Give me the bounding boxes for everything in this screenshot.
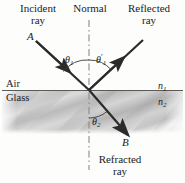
n1-label: n1: [158, 76, 167, 93]
incident-ray-heading: Incident ray: [6, 3, 70, 26]
glass-label: Glass: [6, 92, 29, 103]
n2-label: n2: [158, 92, 167, 109]
point-a-label: A: [27, 31, 34, 43]
refracted-ray-heading: Refracted ray: [88, 154, 152, 177]
normal-heading: Normal: [64, 3, 116, 15]
theta1-prime-label: θ′1: [96, 50, 106, 67]
theta2-subscript: 2: [97, 121, 101, 129]
reflected-heading-line1: Reflected: [116, 3, 182, 15]
theta1-prime-subscript: 1: [103, 59, 107, 67]
refraction-reflection-diagram: Incident ray Normal Reflected ray A B θ1…: [0, 0, 185, 183]
theta1-label: θ1: [65, 50, 73, 67]
n2-subscript: 2: [163, 101, 167, 109]
reflected-heading-line2: ray: [116, 15, 182, 27]
point-b-label: B: [122, 137, 129, 149]
theta1-subscript: 1: [70, 59, 74, 67]
refracted-heading-line2: ray: [88, 166, 152, 178]
incident-ray-arrow: [36, 41, 66, 69]
normal-heading-text: Normal: [64, 3, 116, 15]
refracted-heading-line1: Refracted: [88, 154, 152, 166]
incident-heading-line2: ray: [6, 15, 70, 27]
incident-heading-line1: Incident: [6, 3, 70, 15]
reflected-ray-heading: Reflected ray: [116, 3, 182, 26]
air-label: Air: [6, 78, 20, 89]
theta2-label: θ2: [92, 112, 100, 129]
